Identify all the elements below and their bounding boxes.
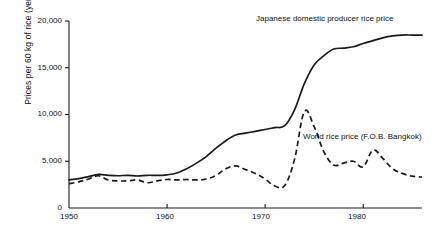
- series-line-world-rice-price: [69, 110, 422, 188]
- series-line-japanese-domestic-producer-rice-price: [69, 35, 422, 180]
- rice-price-line-chart: Prices per 60 kg of rice (yen) 20,000 15…: [0, 0, 446, 236]
- x-axis-ticks: [167, 204, 363, 208]
- y-axis-ticks: [65, 21, 69, 161]
- plot-area: [0, 0, 446, 236]
- axis-lines: [69, 21, 422, 208]
